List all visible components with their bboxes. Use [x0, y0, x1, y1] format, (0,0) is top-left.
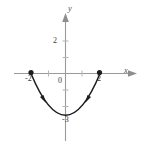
x-tick-label-minus-two: -2 [25, 75, 32, 83]
y-tick-label-two: 2 [53, 37, 57, 45]
parabola-figure: x y -2 2 0 2 -3 [0, 0, 151, 149]
direction-arrow-left [40, 95, 46, 103]
direction-arrow-right [85, 95, 91, 103]
graph-canvas [0, 0, 151, 149]
origin-label: 0 [58, 77, 62, 85]
x-axis-label: x [124, 66, 128, 75]
vertex-label: -3 [62, 116, 69, 124]
y-axis-arrowhead [62, 13, 69, 22]
y-axis-label: y [68, 4, 72, 13]
x-axis-arrowhead [128, 70, 137, 77]
x-tick-label-two: 2 [97, 75, 101, 83]
